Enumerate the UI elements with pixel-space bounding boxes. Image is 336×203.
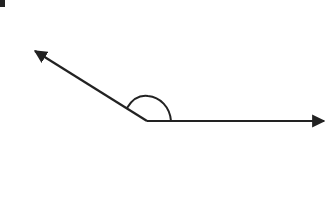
angle-arc <box>127 96 171 121</box>
angle-diagram <box>0 0 336 203</box>
ray-left <box>35 51 147 121</box>
